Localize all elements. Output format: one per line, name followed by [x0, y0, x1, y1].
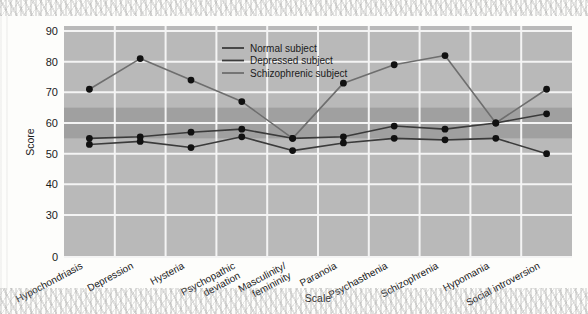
data-point: [543, 86, 550, 93]
data-point: [391, 123, 398, 130]
data-point: [442, 52, 449, 59]
x-axis-title: Scale: [305, 292, 331, 304]
data-point: [86, 141, 93, 148]
y-axis-title: Score: [24, 128, 36, 156]
data-point: [340, 140, 347, 147]
data-point: [86, 86, 93, 93]
data-point: [238, 98, 245, 105]
data-point: [442, 136, 449, 143]
chart-figure: 908070605040300 Score HypochondriasisDep…: [0, 0, 588, 314]
data-point: [340, 80, 347, 87]
x-tick-label-group: Depression: [85, 260, 135, 293]
line-chart: 908070605040300 Score HypochondriasisDep…: [0, 0, 588, 314]
data-point: [188, 129, 195, 136]
data-point: [340, 133, 347, 140]
x-tick-label: Paranoia: [298, 260, 339, 289]
y-axis-tick-labels: 908070605040300: [46, 25, 58, 263]
x-tick-label-group: Schizophrenia: [379, 260, 441, 300]
x-tick-label: Schizophrenia: [379, 260, 441, 300]
x-tick-label-group: Paranoia: [298, 260, 339, 289]
y-tick-label: 0: [52, 251, 58, 263]
x-tick-label-group: Hysteria: [148, 260, 186, 287]
data-point: [188, 77, 195, 84]
data-point: [543, 150, 550, 157]
x-tick-label: Depression: [85, 260, 135, 293]
legend-label: Schizophrenic subject: [250, 68, 347, 79]
data-point: [391, 135, 398, 142]
y-tick-label: 60: [46, 117, 58, 129]
data-point: [86, 135, 93, 142]
y-tick-label: 70: [46, 86, 58, 98]
x-tick-label-group: Masculinity/femininity: [236, 260, 293, 304]
x-axis-category-labels: HypochondriasisDepressionHysteriaPsychop…: [14, 260, 542, 308]
x-tick-label: Hypochondriasis: [14, 260, 84, 304]
x-tick-label-group: Psychopathicdeviation: [179, 260, 242, 307]
y-tick-label: 30: [46, 209, 58, 221]
y-tick-label: 50: [46, 148, 58, 160]
data-point: [238, 133, 245, 140]
data-point: [188, 144, 195, 151]
data-point: [137, 133, 144, 140]
legend-label: Normal subject: [250, 43, 317, 54]
data-point: [442, 126, 449, 133]
y-tick-label: 40: [46, 178, 58, 190]
data-point: [492, 135, 499, 142]
data-point: [391, 61, 398, 68]
data-point: [289, 135, 296, 142]
data-point: [137, 55, 144, 62]
data-point: [238, 126, 245, 133]
data-point: [492, 120, 499, 127]
y-tick-label: 80: [46, 56, 58, 68]
data-point: [289, 147, 296, 154]
data-point: [543, 110, 550, 117]
legend-label: Depressed subject: [250, 55, 333, 66]
x-tick-label-group: Hypochondriasis: [14, 260, 84, 304]
y-tick-label: 90: [46, 25, 58, 37]
x-tick-label: Hysteria: [148, 260, 186, 287]
